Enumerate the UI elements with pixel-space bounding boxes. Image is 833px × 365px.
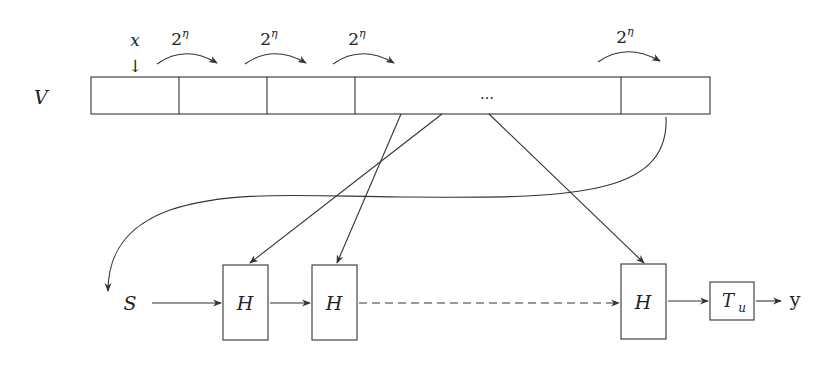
- diagram-canvas: V … x ↓ 2η 2η 2η 2η S H: [0, 0, 833, 365]
- svg-text:T: T: [722, 290, 736, 311]
- transform-block: T u: [710, 282, 754, 320]
- jump-arrow: 2η: [598, 25, 660, 62]
- output-label: y: [789, 288, 801, 310]
- svg-text:H: H: [325, 292, 343, 314]
- jump-arrow: 2η: [333, 27, 394, 64]
- array-outline: [91, 77, 710, 114]
- svg-text:2η: 2η: [348, 27, 366, 49]
- svg-text:H: H: [236, 292, 254, 314]
- pointer-label: x: [130, 30, 140, 50]
- svg-text:H: H: [634, 291, 652, 313]
- feed-arrow-h3: [489, 114, 644, 263]
- feed-arrow-h1: [250, 114, 442, 263]
- hash-block: H: [621, 264, 666, 339]
- jump-arrow: 2η: [157, 27, 217, 64]
- svg-text:2η: 2η: [171, 27, 189, 49]
- array-v: …: [91, 77, 710, 114]
- ellipsis-cell: …: [480, 86, 494, 102]
- svg-text:2η: 2η: [616, 25, 634, 47]
- input-label: S: [123, 292, 136, 314]
- down-arrow-icon: ↓: [128, 56, 142, 76]
- jump-arrow: 2η: [245, 27, 306, 64]
- svg-text:2η: 2η: [260, 27, 278, 49]
- hash-block: H: [312, 265, 357, 340]
- array-label: V: [34, 86, 50, 108]
- hash-block: H: [223, 265, 268, 340]
- svg-text:u: u: [738, 301, 746, 315]
